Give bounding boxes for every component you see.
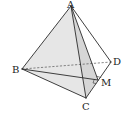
label-c: C xyxy=(82,101,90,112)
label-d: D xyxy=(113,56,121,67)
tetrahedron-diagram: A B C D M xyxy=(0,0,127,120)
label-a: A xyxy=(66,0,75,10)
label-m: M xyxy=(101,77,111,88)
label-b: B xyxy=(12,64,19,75)
